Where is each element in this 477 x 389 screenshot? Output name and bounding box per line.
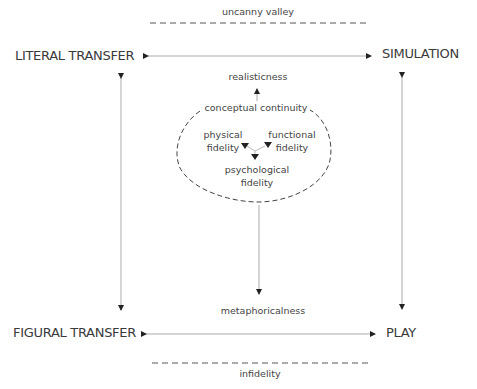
psychological-triangle-icon	[251, 154, 259, 160]
realisticness-label: realisticness	[229, 71, 288, 82]
conceptual-continuity-label: conceptual continuity	[205, 102, 308, 113]
functional-fidelity-label: functional fidelity	[268, 128, 315, 154]
metaphoricalness-label: metaphoricalness	[221, 305, 306, 316]
infidelity-label: infidelity	[239, 368, 280, 379]
physical-fidelity-label: physical fidelity	[204, 128, 243, 154]
psychological-fidelity-label: psychological fidelity	[225, 163, 289, 189]
literal-transfer-label: LITERAL TRANSFER	[15, 48, 134, 63]
play-label: PLAY	[386, 325, 416, 340]
uncanny-valley-label: uncanny valley	[222, 6, 294, 17]
simulation-label: SIMULATION	[382, 46, 459, 61]
figural-transfer-label: FIGURAL TRANSFER	[13, 325, 136, 340]
